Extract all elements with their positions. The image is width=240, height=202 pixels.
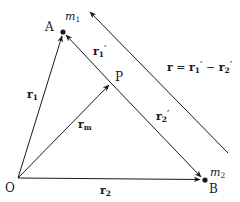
vector-label-r2: r2 — [100, 184, 111, 198]
vector-label-r2-prime: r2′ — [156, 108, 170, 124]
relative-motion-diagram: A P O B m1 m2 r1 r2 rm r1′ r2′ r = r1′ −… — [0, 0, 240, 202]
mass-point-a-dot — [60, 29, 65, 34]
vector-r2-arrow — [18, 178, 200, 180]
vector-r2-prime-arrow — [111, 83, 201, 177]
point-label-b: B — [209, 182, 218, 196]
vector-label-rm: rm — [78, 118, 92, 132]
mass-label-m1: m1 — [65, 10, 80, 24]
point-label-o: O — [5, 181, 15, 195]
mass-point-b-dot — [202, 177, 207, 182]
vector-label-r1: r1 — [27, 88, 38, 102]
equation-label: r = r1′ − r2′ — [167, 59, 233, 75]
point-label-p: P — [115, 70, 123, 84]
vector-r1-arrow — [18, 36, 62, 178]
point-label-a: A — [44, 20, 54, 34]
mass-label-m2: m2 — [210, 166, 225, 180]
vector-label-r1-prime: r1′ — [93, 43, 107, 59]
